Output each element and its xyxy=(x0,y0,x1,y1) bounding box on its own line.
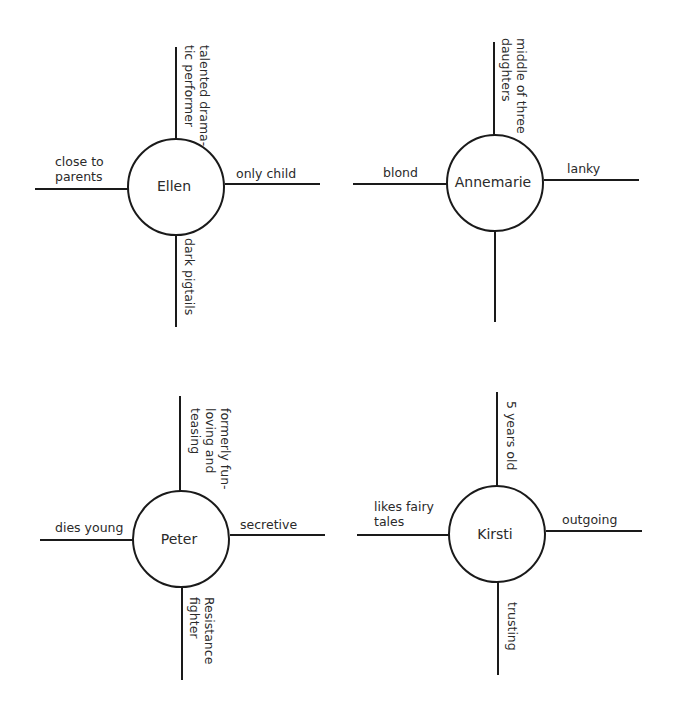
trait-left-line1: likes fairy xyxy=(374,499,435,514)
trait-top-line3: teasing xyxy=(188,408,203,454)
trait-left-line1: close to xyxy=(55,154,104,169)
trait-left: dies young xyxy=(55,520,123,535)
trait-top-line1: formerly fun- xyxy=(218,408,233,490)
trait-bottom: dark pigtails xyxy=(182,238,197,315)
character-name: Kirsti xyxy=(477,526,513,542)
trait-bottom-line2: fighter xyxy=(187,597,202,639)
trait-right: only child xyxy=(236,166,296,181)
trait-left: blond xyxy=(383,165,418,180)
character-web-ellen: Ellen talented drama- tic performer clos… xyxy=(35,45,320,327)
trait-top: 5 years old xyxy=(504,401,519,470)
trait-left-line2: parents xyxy=(55,169,103,184)
trait-top-line2: tic performer xyxy=(182,45,197,128)
trait-top-line1: talented drama- xyxy=(197,45,212,146)
trait-top-line2: loving and xyxy=(203,408,218,473)
character-web-annemarie: Annemarie middle of three daughters blon… xyxy=(353,38,639,322)
trait-right: secretive xyxy=(240,517,297,532)
character-web-kirsti: Kirsti 5 years old likes fairy tales out… xyxy=(357,392,642,675)
character-web-peter: Peter formerly fun- loving and teasing d… xyxy=(40,396,325,680)
trait-bottom: trusting xyxy=(505,602,520,651)
trait-left-line2: tales xyxy=(374,514,404,529)
trait-top-line2: daughters xyxy=(499,38,514,102)
character-name: Ellen xyxy=(157,178,191,194)
trait-right: lanky xyxy=(567,161,601,176)
character-webs: Ellen talented drama- tic performer clos… xyxy=(0,0,676,713)
trait-bottom-line1: Resistance xyxy=(202,597,217,665)
character-name: Annemarie xyxy=(455,174,531,190)
trait-top-line1: middle of three xyxy=(514,38,529,134)
character-name: Peter xyxy=(161,531,198,547)
trait-right: outgoing xyxy=(562,512,617,527)
